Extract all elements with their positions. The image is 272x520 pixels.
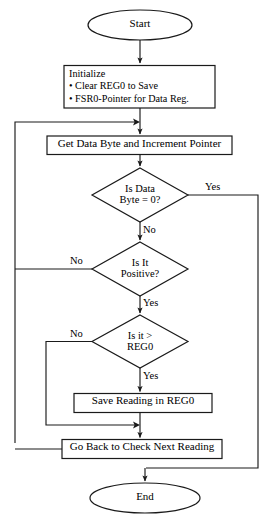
edge-label-ispositive-no: No xyxy=(70,255,83,266)
is-positive-diamond-shape xyxy=(92,242,188,296)
end-terminator-shape xyxy=(90,483,200,513)
get-byte-box-shape xyxy=(47,136,232,155)
edge-label-isgreater-no: No xyxy=(70,328,83,339)
save-reading-box-shape xyxy=(74,394,212,413)
flowchart-canvas: Start Initialize • Clear REG0 to Save • … xyxy=(0,0,272,520)
initialize-bullet-1: • Clear REG0 to Save xyxy=(69,80,189,92)
initialize-bullet-2: • FSR0-Pointer for Data Reg. xyxy=(69,93,189,105)
start-terminator-shape xyxy=(88,10,192,40)
initialize-box-text: Initialize • Clear REG0 to Save • FSR0-P… xyxy=(69,68,189,105)
edge-label-ispositive-yes: Yes xyxy=(143,297,158,308)
is-zero-diamond-shape xyxy=(92,168,188,222)
edge-label-iszero-no: No xyxy=(143,224,156,235)
initialize-heading: Initialize xyxy=(69,68,189,80)
go-back-box-shape xyxy=(62,440,222,459)
edge-label-iszero-yes: Yes xyxy=(205,181,220,192)
edge-label-isgreater-yes: Yes xyxy=(143,370,158,381)
is-greater-diamond-shape xyxy=(92,315,188,368)
